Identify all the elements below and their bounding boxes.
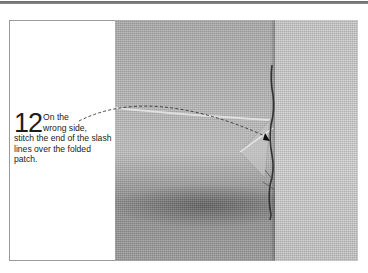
top-rule bbox=[0, 1, 368, 4]
photo-details bbox=[115, 20, 358, 261]
step-photo bbox=[115, 20, 358, 261]
caption-rest: stitch the end of the slash lines over t… bbox=[14, 133, 111, 164]
step-number: 12 bbox=[14, 113, 42, 133]
step-caption: 12 On the wrong side, stitch the end of … bbox=[14, 112, 114, 165]
